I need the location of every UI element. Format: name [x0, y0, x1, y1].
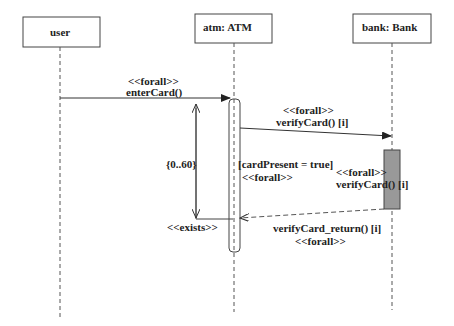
- lifeline-user[interactable]: user: [23, 17, 100, 318]
- message-return-stereotype: <<forall>>: [295, 235, 346, 247]
- message-return-label: verifyCard_return() [i]: [273, 222, 381, 235]
- constraint-stereotype: <<forall>>: [242, 171, 293, 183]
- lifeline-user-label: user: [50, 26, 70, 38]
- timing-stereotype: <<exists>>: [167, 221, 218, 233]
- constraint-label: [cardPresent = true]: [238, 158, 333, 170]
- activation-stereotype: <<forall>>: [336, 166, 387, 178]
- timing-label: {0..60}: [166, 158, 197, 170]
- message-verifyCard-return[interactable]: verifyCard_return() [i] <<forall>>: [240, 209, 384, 247]
- message-verifyCard-stereotype: <<forall>>: [283, 104, 334, 116]
- timing-constraint[interactable]: {0..60} <<exists>>: [166, 104, 233, 233]
- message-enterCard[interactable]: <<forall>> enterCard(): [60, 75, 230, 99]
- sequence-diagram: user atm: ATM bank: Bank <<forall>> ente…: [0, 0, 454, 326]
- lifeline-bank-label: bank: Bank: [362, 21, 418, 33]
- message-verifyCard[interactable]: <<forall>> verifyCard() [i]: [240, 104, 391, 136]
- lifeline-atm-label: atm: ATM: [203, 21, 253, 33]
- activation-label: verifyCard() [i]: [336, 178, 408, 191]
- message-enterCard-label: enterCard(): [126, 86, 183, 99]
- message-verifyCard-label: verifyCard() [i]: [276, 116, 348, 129]
